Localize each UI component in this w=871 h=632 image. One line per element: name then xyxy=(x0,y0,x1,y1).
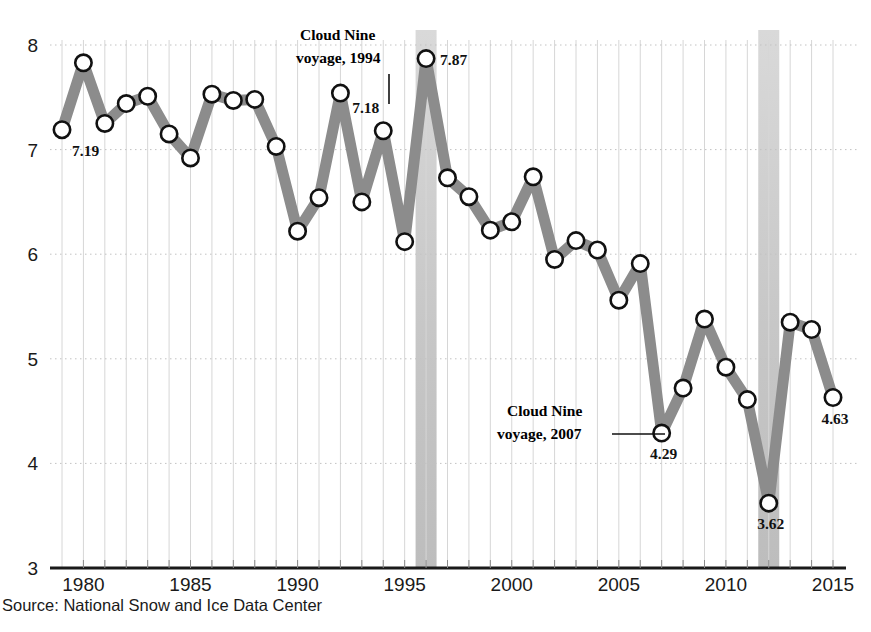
data-value-labels: 7.197.187.874.293.624.63 xyxy=(72,51,849,533)
sea-ice-extent-line-chart: 876543 19801985199019952000200520102015 … xyxy=(0,0,871,632)
data-point-2000 xyxy=(504,214,520,230)
annotation-1994-line1: Cloud Nine xyxy=(300,26,375,43)
data-point-2003 xyxy=(568,232,584,248)
data-point-1990 xyxy=(289,223,305,239)
data-point-1997 xyxy=(439,170,455,186)
data-point-1989 xyxy=(268,138,284,154)
data-point-1982 xyxy=(118,95,134,111)
chart-figure: (millions of square kilometers) 876543 1… xyxy=(0,0,871,632)
data-point-2009 xyxy=(696,311,712,327)
data-point-1987 xyxy=(225,92,241,108)
data-point-1995 xyxy=(396,233,412,249)
data-label-1996: 7.87 xyxy=(440,51,467,68)
data-point-2011 xyxy=(739,391,755,407)
source-note: Source: National Snow and Ice Data Cente… xyxy=(2,596,322,615)
data-point-1986 xyxy=(204,86,220,102)
data-point-2006 xyxy=(632,255,648,271)
y-tick-label-8: 8 xyxy=(27,35,38,56)
y-tick-label-6: 6 xyxy=(27,244,38,265)
data-label-1979: 7.19 xyxy=(72,142,99,159)
data-point-1993 xyxy=(354,194,370,210)
data-point-2012 xyxy=(761,495,777,511)
data-point-2010 xyxy=(718,359,734,375)
data-point-1979 xyxy=(54,122,70,138)
data-point-2002 xyxy=(546,251,562,267)
x-axis-tick-labels: 19801985199019952000200520102015 xyxy=(62,574,854,595)
data-point-2001 xyxy=(525,169,541,185)
vertical-gridlines xyxy=(62,40,833,568)
data-point-2007 xyxy=(653,425,669,441)
data-point-1980 xyxy=(75,55,91,71)
x-tick-label-2000: 2000 xyxy=(491,574,533,595)
x-tick-label-1990: 1990 xyxy=(276,574,318,595)
data-point-2013 xyxy=(782,314,798,330)
data-point-1996 xyxy=(418,50,434,66)
data-point-2005 xyxy=(611,292,627,308)
x-tick-label-2015: 2015 xyxy=(812,574,854,595)
y-tick-label-5: 5 xyxy=(27,349,38,370)
data-label-1994: 7.18 xyxy=(352,99,379,116)
x-tick-label-1980: 1980 xyxy=(62,574,104,595)
y-tick-label-4: 4 xyxy=(27,453,38,474)
y-tick-label-3: 3 xyxy=(27,558,38,579)
data-point-1999 xyxy=(482,222,498,238)
x-tick-label-1985: 1985 xyxy=(169,574,211,595)
annotation-2007-line2: voyage, 2007 xyxy=(497,425,582,442)
data-point-2004 xyxy=(589,242,605,258)
annotation-1994-line2: voyage, 1994 xyxy=(296,49,381,66)
data-label-2015: 4.63 xyxy=(821,410,848,427)
data-point-1984 xyxy=(161,126,177,142)
x-tick-label-2005: 2005 xyxy=(598,574,640,595)
data-point-1988 xyxy=(247,91,263,107)
data-point-1981 xyxy=(97,115,113,131)
data-point-1983 xyxy=(139,88,155,104)
x-tick-label-2010: 2010 xyxy=(705,574,747,595)
data-point-2015 xyxy=(825,389,841,405)
data-point-1992 xyxy=(332,85,348,101)
data-label-2007: 4.29 xyxy=(650,445,677,462)
data-point-1998 xyxy=(461,188,477,204)
x-tick-label-1995: 1995 xyxy=(384,574,426,595)
y-tick-label-7: 7 xyxy=(27,140,38,161)
annotation-2007-line1: Cloud Nine xyxy=(507,402,582,419)
data-point-1991 xyxy=(311,190,327,206)
data-point-2014 xyxy=(803,321,819,337)
data-point-1994 xyxy=(375,123,391,139)
data-point-1985 xyxy=(182,150,198,166)
data-point-2008 xyxy=(675,380,691,396)
data-label-2012: 3.62 xyxy=(757,515,784,532)
y-axis-tick-labels: 876543 xyxy=(27,35,38,579)
